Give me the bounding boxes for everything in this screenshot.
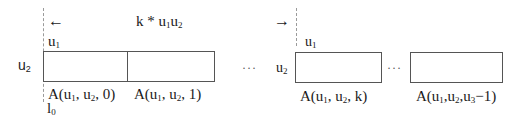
group1-side-label: u2 [18,57,31,74]
left-arrow-icon: ← [48,12,64,30]
right-arrow-icon: → [274,12,290,30]
cell-box-k [295,52,382,83]
group2-top-label: u1 [305,34,317,50]
right-guide-line [296,8,297,46]
span-label: k * u1u2 [136,13,183,30]
cell-label-k: A(u1, u2, k) [300,88,367,105]
cell-box-1 [127,51,215,82]
ellipsis-between-groups: ··· [242,61,257,76]
ellipsis-within-group: ··· [387,61,402,76]
group2-side-label: u2 [276,60,288,76]
cell-label-0: A(u1, u2, 0) [48,86,115,103]
cell-label-last: A(u1,u2,u3−1) [416,88,496,105]
cell-box-0 [43,51,129,82]
cell-box-last [410,52,503,83]
cell-label-1: A(u1, u2, 1) [134,86,201,103]
group1-top-label: u1 [48,33,60,50]
